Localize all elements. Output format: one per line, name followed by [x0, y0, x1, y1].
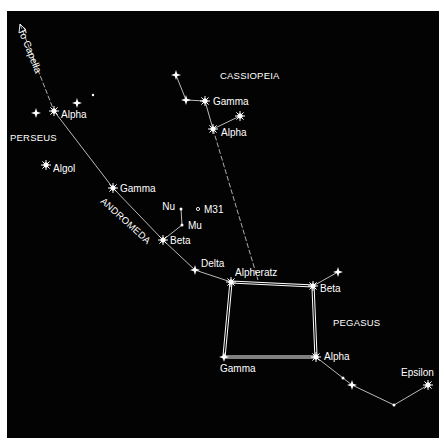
star-cassiopeia-alpha: [208, 124, 218, 134]
label-pegasus-gamma: Gamma: [220, 363, 256, 374]
label-pegasus-epsilon: Epsilon: [401, 367, 434, 378]
star-pegasus-epsilon: [423, 380, 433, 390]
star-algol: [41, 160, 51, 170]
star-cassiopeia-gamma: [200, 96, 210, 106]
label-andromeda: ANDROMEDA: [99, 195, 154, 246]
star-perseus-alpha: [49, 106, 59, 116]
star-perseus-minor: [72, 98, 82, 108]
label-andromeda-gamma: Gamma: [120, 183, 156, 194]
label-cassiopeia-gamma: Gamma: [213, 96, 249, 107]
star-chart: To Capella Alpha PERSEUS Algol Gamma AND…: [0, 0, 444, 445]
label-cassiopeia: CASSIOPEIA: [220, 70, 280, 81]
label-pegasus-alpha: Alpha: [324, 351, 350, 362]
label-perseus: PERSEUS: [10, 132, 57, 143]
star-pegasus-alpha: [311, 352, 321, 362]
labels: To Capella Alpha PERSEUS Algol Gamma AND…: [10, 27, 434, 378]
label-alpheratz: Alpheratz: [235, 267, 277, 278]
label-algol: Algol: [53, 163, 75, 174]
label-pegasus: PEGASUS: [333, 317, 380, 328]
label-andromeda-beta: Beta: [170, 235, 191, 246]
label-m31: M31: [204, 204, 224, 215]
label-mu: Mu: [188, 220, 202, 231]
andromeda-line: [20, 24, 231, 282]
star-alpheratz: [226, 277, 236, 287]
star-andromeda-gamma: [108, 183, 118, 193]
label-pegasus-beta: Beta: [320, 283, 341, 294]
star-perseus-minor: [31, 108, 41, 118]
label-cassiopeia-alpha: Alpha: [221, 127, 247, 138]
to-capella-label: To Capella: [16, 27, 44, 75]
star-andromeda-beta: [158, 235, 168, 245]
label-nu: Nu: [162, 201, 175, 212]
star-pegasus-gamma: [219, 352, 229, 362]
star-pegasus-beta: [308, 281, 318, 291]
label-andromeda-delta: Delta: [201, 258, 225, 269]
label-perseus-alpha: Alpha: [61, 109, 87, 120]
